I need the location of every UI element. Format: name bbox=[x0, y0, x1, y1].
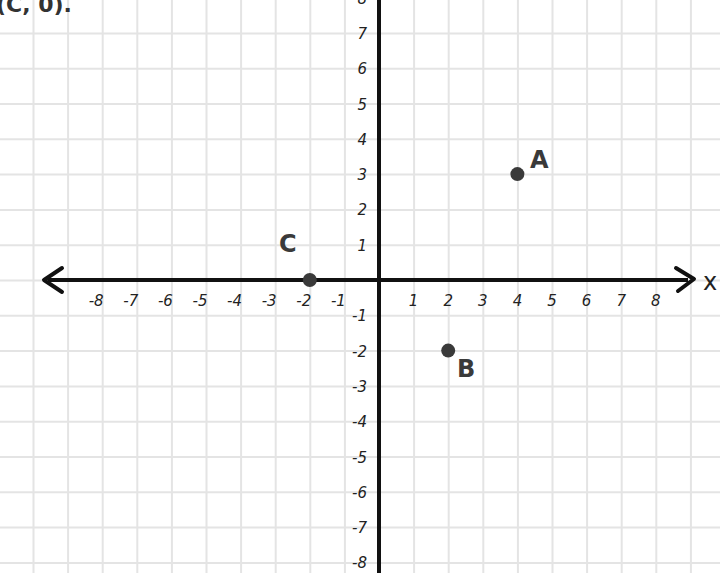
x-tick-label: 1 bbox=[409, 292, 419, 310]
y-tick-label: 5 bbox=[357, 96, 367, 114]
coordinate-plane: (C, 0). x -8-7-6-5-4-3-2-112345678 87654… bbox=[0, 0, 720, 573]
point-label: A bbox=[530, 146, 549, 174]
axes: x bbox=[44, 0, 717, 573]
x-tick-label: -7 bbox=[123, 292, 138, 310]
x-tick-label: 3 bbox=[478, 292, 488, 310]
point-b: B bbox=[441, 344, 475, 383]
x-tick-label: -2 bbox=[296, 292, 311, 310]
x-tick-label: 6 bbox=[582, 292, 592, 310]
x-tick-label: -1 bbox=[331, 292, 346, 310]
x-tick-label: 7 bbox=[616, 292, 626, 310]
y-tick-label: -7 bbox=[352, 519, 367, 537]
x-tick-label: -8 bbox=[89, 292, 104, 310]
y-tick-label: -3 bbox=[352, 378, 367, 396]
x-tick-label: -6 bbox=[158, 292, 173, 310]
y-tick-label: -1 bbox=[352, 307, 367, 325]
x-tick-labels: -8-7-6-5-4-3-2-112345678 bbox=[89, 292, 661, 310]
y-tick-label: -8 bbox=[352, 554, 367, 572]
y-tick-label: 2 bbox=[357, 201, 367, 219]
y-tick-label: -5 bbox=[352, 449, 367, 467]
y-tick-labels: 87654321-1-2-3-4-5-6-7-8 bbox=[352, 0, 367, 572]
x-tick-label: 5 bbox=[547, 292, 557, 310]
y-tick-label: -2 bbox=[352, 343, 367, 361]
y-tick-label: -4 bbox=[352, 413, 367, 431]
y-tick-label: -6 bbox=[352, 484, 367, 502]
y-tick-label: 1 bbox=[357, 237, 367, 255]
x-tick-label: 8 bbox=[651, 292, 661, 310]
caption-fragment: (C, 0). bbox=[0, 0, 72, 17]
point-marker bbox=[510, 167, 524, 181]
y-tick-label: 3 bbox=[357, 166, 367, 184]
x-tick-label: -4 bbox=[227, 292, 242, 310]
y-tick-label: 8 bbox=[357, 0, 367, 8]
point-label: C bbox=[279, 230, 297, 258]
point-marker bbox=[441, 344, 455, 358]
x-tick-label: 4 bbox=[513, 292, 523, 310]
point-label: B bbox=[457, 355, 475, 383]
point-marker bbox=[303, 273, 317, 287]
y-tick-label: 4 bbox=[357, 131, 367, 149]
x-tick-label: -5 bbox=[193, 292, 208, 310]
y-tick-label: 6 bbox=[357, 60, 367, 78]
x-tick-label: -3 bbox=[262, 292, 277, 310]
x-axis-label: x bbox=[703, 268, 717, 296]
y-tick-label: 7 bbox=[357, 25, 367, 43]
point-a: A bbox=[510, 146, 549, 181]
x-tick-label: 2 bbox=[443, 292, 453, 310]
